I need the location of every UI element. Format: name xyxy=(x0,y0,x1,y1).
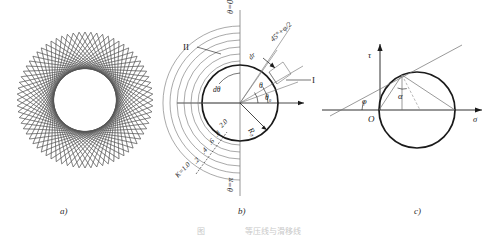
figure-root: θ=0° θ=π II I dθ θ θ₀ dr 45°+φ/2 R₀ K=1.… xyxy=(0,0,498,235)
spirograph-svg xyxy=(0,0,170,235)
mohr-dashed-chord xyxy=(402,75,420,110)
phi-label: φ xyxy=(362,96,367,106)
panel-label-c: c) xyxy=(414,206,421,216)
theta0-label: θ₀ xyxy=(265,93,272,102)
region-2-label: II xyxy=(183,42,189,52)
tau-axis-label: τ xyxy=(368,50,372,60)
panel-label-a: a) xyxy=(60,206,68,216)
ray-angle-label: 45°+φ/2 xyxy=(268,20,293,44)
alpha-label: α xyxy=(398,91,403,101)
dr-label: dr xyxy=(246,50,257,61)
spirograph-chords xyxy=(17,32,153,168)
horizontal-axis-arrow xyxy=(298,101,304,105)
axis-top-label: θ=0° xyxy=(225,0,235,14)
tau-axis-arrow xyxy=(377,44,382,51)
k-label-2: .4 xyxy=(200,146,210,156)
figure-caption: 图 等压线与滑移线 xyxy=(0,227,498,235)
panel-a xyxy=(0,0,170,235)
panel-b: θ=0° θ=π II I dθ θ θ₀ dr 45°+φ/2 R₀ K=1.… xyxy=(165,0,315,235)
sigma-axis-label: σ xyxy=(473,114,478,124)
panel-label-b: b) xyxy=(238,206,246,216)
axis-bottom-label: θ=π xyxy=(225,177,235,192)
slipline-svg: θ=0° θ=π II I dθ θ θ₀ dr 45°+φ/2 R₀ K=1.… xyxy=(165,0,315,235)
k-label-0: K=1.0 xyxy=(173,160,192,180)
mohr-circle-svg: τ σ O φ α xyxy=(310,0,498,235)
sigma-axis-arrow xyxy=(475,107,482,112)
dtheta-label: dθ xyxy=(213,85,221,94)
theta-label: θ xyxy=(259,81,263,90)
panel-c: τ σ O φ α xyxy=(310,0,498,235)
origin-label: O xyxy=(368,114,375,124)
